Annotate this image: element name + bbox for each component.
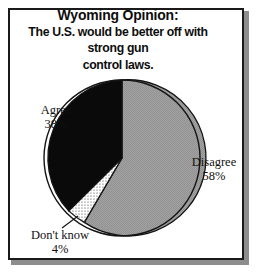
pie-label-disagree: Disagree 58% [182, 155, 246, 183]
pie-label-disagree-name: Disagree [182, 155, 246, 169]
pie-label-agree-name: Agree [28, 103, 84, 117]
pie-label-disagree-value: 58% [182, 169, 246, 183]
figure-subtitle-line-1: The U.S. would be better off with strong… [18, 24, 219, 56]
figure-subtitle-line-2: control laws. [18, 57, 219, 73]
pie-chart-figure: Wyoming Opinion: The U.S. would be bette… [0, 0, 257, 276]
page-title: Wyoming Opinion: [18, 6, 219, 23]
pie-label-dont-know: Don't know 4% [18, 228, 102, 256]
pie-label-agree-value: 38% [28, 117, 84, 131]
pie-label-agree: Agree 38% [28, 103, 84, 131]
figure-title-block: Wyoming Opinion: The U.S. would be bette… [10, 6, 226, 73]
pie-label-dont-know-value: 4% [18, 242, 102, 256]
pie-label-dont-know-name: Don't know [18, 228, 102, 242]
